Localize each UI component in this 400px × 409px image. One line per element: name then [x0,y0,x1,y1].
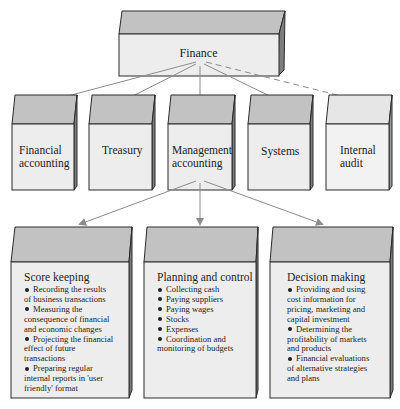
label-line: audit [340,157,376,170]
bullet-icon [158,337,162,341]
label-line: accounting [19,157,69,170]
department-box-management-accounting [168,95,235,190]
department-label-management-accounting: Management accounting [172,144,232,170]
label-line: Treasury [102,144,142,157]
bullet-icon [158,317,162,321]
bullet-icon [288,288,292,292]
department-box-treasury [89,95,155,190]
panel-decision-making: Decision making Providing and usingcost … [287,271,391,384]
bullet-icon [288,327,292,331]
list-item: Determining theprofitability of marketsa… [287,325,391,355]
panel-score-keeping: Score keeping Recording the resultsof bu… [24,271,130,394]
panel-list: Providing and usingcost information forp… [287,285,391,384]
bullet-icon [288,357,292,361]
list-item: Providing and usingcost information forp… [287,285,391,325]
finance-label: Finance [119,46,278,61]
bullet-icon [25,337,29,341]
bullet-icon [25,307,29,311]
panel-list: Collecting cash Paying suppliers Paying … [157,285,257,354]
list-item: Measuring theconsequence of financialand… [24,305,130,335]
department-box-systems [248,95,313,190]
department-box-financial-accounting [12,95,77,190]
label-line: Internal [340,144,376,157]
department-box-internal-audit [326,95,392,190]
list-item: Recording the resultsof business transac… [24,285,130,305]
panel-planning-and-control: Planning and control Collecting cash Pay… [157,271,257,354]
bullet-icon [158,327,162,331]
department-label-financial-accounting: Financial accounting [19,144,69,170]
department-label-internal-audit: Internal audit [340,144,376,170]
finance-org-chart: Finance Financial accounting Treasury Ma… [0,0,400,409]
finance-box [119,11,285,76]
label-line: accounting [172,157,232,170]
panel-title: Planning and control [157,271,257,284]
panel-list: Recording the resultsof business transac… [24,285,130,394]
bullet-icon [158,288,162,292]
bullet-icon [25,367,29,371]
list-item: Financial evaluationsof alternative stra… [287,354,391,384]
list-item: Projecting the financialeffect of future… [24,335,130,365]
list-item: Preparing regularinternal reports in 'us… [24,364,130,394]
bullet-icon [158,307,162,311]
bullet-icon [25,288,29,292]
label-line: Management [172,144,232,157]
list-item: Coordination andmonitoring of budgets [157,335,257,355]
department-label-treasury: Treasury [102,144,142,157]
panel-title: Score keeping [24,271,130,284]
label-line: Systems [261,145,299,158]
bullet-icon [158,297,162,301]
label-line: Financial [19,144,69,157]
department-label-systems: Systems [261,145,299,158]
panel-title: Decision making [287,271,391,284]
